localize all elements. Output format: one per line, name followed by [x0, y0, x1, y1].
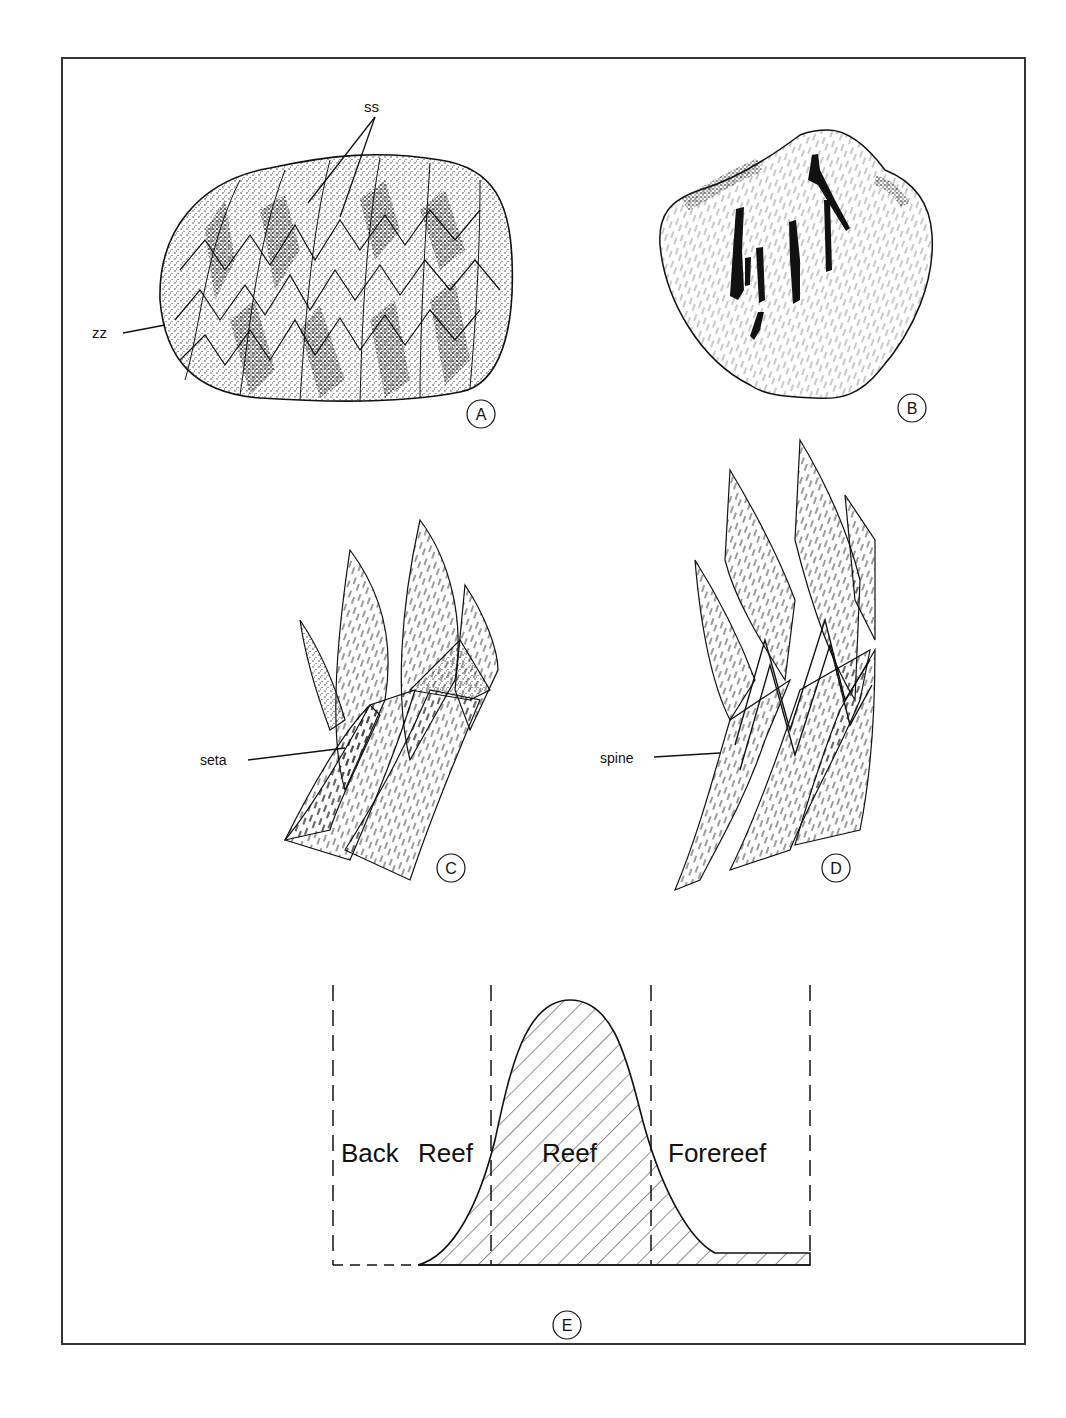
panel-b: B: [660, 130, 933, 422]
panel-d-letter: D: [830, 860, 842, 877]
spine-leader: [654, 753, 720, 757]
panel-c-letter: C: [445, 860, 457, 877]
zone-label-back: Back: [341, 1138, 400, 1168]
zz-leader: [123, 325, 165, 333]
figure-canvas: ss zz A B: [0, 0, 1066, 1418]
abundance-curve: [418, 1000, 810, 1265]
label-seta: seta: [200, 752, 227, 768]
panel-c: seta C: [200, 520, 498, 882]
label-zz: zz: [92, 324, 107, 341]
panel-e: Back Reef Reef Forereef E: [333, 985, 810, 1339]
label-spine: spine: [600, 750, 634, 766]
panel-d: spine D: [600, 440, 875, 890]
zone-label-reef: Reef: [542, 1138, 598, 1168]
panel-a: ss zz A: [92, 98, 512, 428]
label-ss: ss: [364, 98, 379, 115]
panel-a-letter: A: [476, 406, 487, 423]
panel-b-letter: B: [907, 400, 918, 417]
zone-label-back-reef: Reef: [418, 1138, 474, 1168]
panel-e-letter: E: [562, 1317, 573, 1334]
zone-label-forereef: Forereef: [668, 1138, 767, 1168]
